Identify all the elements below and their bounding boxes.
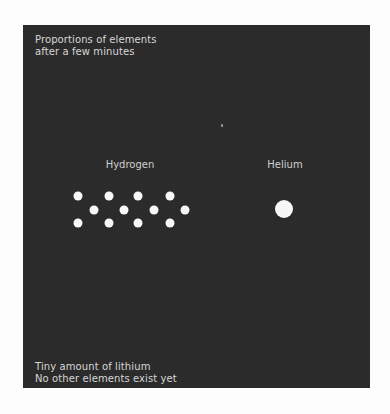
hydrogen-atom xyxy=(166,219,175,228)
title-line-1: Proportions of elements xyxy=(35,34,157,46)
diagram-panel xyxy=(23,25,370,388)
hydrogen-atom xyxy=(105,219,114,228)
hydrogen-atom xyxy=(134,192,143,201)
hydrogen-atom xyxy=(90,206,99,215)
hydrogen-atom xyxy=(74,219,83,228)
title-line-2: after a few minutes xyxy=(35,46,157,58)
footer-line-1: Tiny amount of lithium xyxy=(35,361,177,373)
hydrogen-atom xyxy=(74,192,83,201)
hydrogen-atom xyxy=(166,192,175,201)
helium-atom xyxy=(275,200,293,218)
footer-caption: Tiny amount of lithium No other elements… xyxy=(35,361,177,385)
hydrogen-label: Hydrogen xyxy=(106,159,155,171)
hydrogen-atom xyxy=(150,206,159,215)
footer-line-2: No other elements exist yet xyxy=(35,373,177,385)
hydrogen-atom xyxy=(120,206,129,215)
hydrogen-atom xyxy=(105,192,114,201)
hydrogen-atom xyxy=(134,219,143,228)
lithium-speck xyxy=(221,124,223,127)
hydrogen-atom xyxy=(181,206,190,215)
helium-label: Helium xyxy=(267,159,302,171)
title-caption: Proportions of elements after a few minu… xyxy=(35,34,157,58)
